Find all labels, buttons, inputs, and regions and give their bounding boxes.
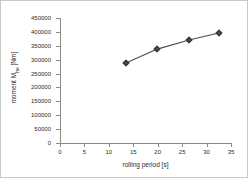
y-axis-title-subscript: he — [14, 67, 20, 73]
y-tick-label: 200000 — [31, 84, 51, 90]
y-tick-label: 400000 — [31, 29, 51, 35]
y-tick — [56, 115, 60, 116]
x-tick — [84, 143, 85, 147]
x-tick — [182, 143, 183, 147]
x-tick — [133, 143, 134, 147]
x-tick — [60, 143, 61, 147]
x-tick-label: 0 — [50, 149, 70, 155]
chart-figure: 0500001000001500002000002500003000003500… — [0, 0, 248, 178]
y-axis-title: moment Mhe [Nm] — [10, 28, 19, 128]
y-axis-line — [60, 18, 61, 144]
x-tick-label: 35 — [221, 149, 241, 155]
y-tick-label: 250000 — [31, 71, 51, 77]
x-tick-label: 30 — [197, 149, 217, 155]
y-tick-label: 450000 — [31, 15, 51, 21]
x-axis-title: rolling period [s] — [60, 161, 231, 168]
y-axis-title-unit: [Nm] — [10, 52, 17, 68]
plot-area — [60, 18, 231, 143]
x-tick — [231, 143, 232, 147]
x-tick-label: 5 — [74, 149, 94, 155]
x-tick — [158, 143, 159, 147]
y-tick-label: 100000 — [31, 112, 51, 118]
x-tick — [109, 143, 110, 147]
y-tick — [56, 101, 60, 102]
y-tick — [56, 87, 60, 88]
y-tick-label: 150000 — [31, 98, 51, 104]
y-tick — [56, 32, 60, 33]
y-tick-label: 0 — [48, 140, 51, 146]
y-tick — [56, 74, 60, 75]
x-tick-label: 20 — [148, 149, 168, 155]
y-tick — [56, 129, 60, 130]
y-tick — [56, 18, 60, 19]
y-axis-title-main: moment M — [10, 73, 17, 104]
x-tick-label: 10 — [99, 149, 119, 155]
x-tick — [207, 143, 208, 147]
x-tick-label: 25 — [172, 149, 192, 155]
y-tick — [56, 46, 60, 47]
y-tick-label: 50000 — [34, 126, 51, 132]
y-tick-label: 300000 — [31, 57, 51, 63]
y-tick-label: 350000 — [31, 43, 51, 49]
x-tick-label: 15 — [123, 149, 143, 155]
y-tick — [56, 60, 60, 61]
